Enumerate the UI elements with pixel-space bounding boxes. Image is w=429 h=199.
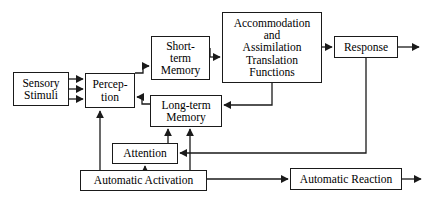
node-sensory-stimuli: Sensory Stimuli	[13, 72, 69, 106]
node-automatic-reaction: Automatic Reaction	[290, 168, 402, 190]
edge-accommodation-to-long-term	[224, 83, 272, 105]
node-automatic-activation: Automatic Activation	[80, 170, 207, 191]
node-perception-label: Percep- tion	[86, 78, 134, 102]
node-perception: Percep- tion	[85, 73, 135, 108]
node-accommodation-assimilation-label: Accommodation and Assimilation Translati…	[223, 17, 321, 78]
node-automatic-activation-label: Automatic Activation	[81, 174, 206, 186]
diagram-canvas: Sensory Stimuli Percep- tion Short- term…	[0, 0, 429, 199]
node-short-term-memory: Short- term Memory	[151, 36, 210, 80]
node-long-term-memory: Long-term Memory	[150, 95, 222, 127]
edge-long-term-to-perception	[137, 97, 150, 104]
node-attention-label: Attention	[113, 147, 177, 159]
node-response-label: Response	[335, 41, 397, 53]
node-response: Response	[334, 36, 398, 58]
node-attention: Attention	[112, 143, 178, 164]
node-short-term-memory-label: Short- term Memory	[152, 40, 209, 77]
node-sensory-stimuli-label: Sensory Stimuli	[14, 77, 68, 101]
edge-perception-to-short-term	[135, 66, 149, 73]
node-automatic-reaction-label: Automatic Reaction	[291, 173, 401, 185]
node-long-term-memory-label: Long-term Memory	[151, 99, 221, 123]
node-accommodation-assimilation: Accommodation and Assimilation Translati…	[222, 12, 322, 83]
